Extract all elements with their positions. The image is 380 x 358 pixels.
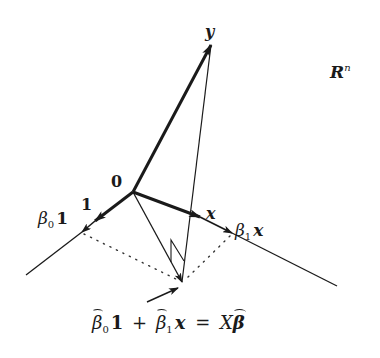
span-line-one-direction: [26, 232, 82, 275]
x-text: x: [206, 204, 216, 223]
beta1-hat-sub: 1: [166, 324, 172, 335]
residual-line: [182, 45, 211, 282]
label-x: x: [206, 206, 216, 222]
space-symbol: R: [330, 62, 344, 82]
vector-beta0-one: [82, 221, 95, 232]
pointer-arrow: [147, 288, 178, 302]
beta1-coef: β: [235, 220, 245, 240]
plus-sign: +: [132, 312, 147, 333]
design-matrix: X: [220, 312, 233, 333]
beta-hat-vec: β: [233, 314, 245, 332]
label-y: y: [205, 24, 214, 40]
beta1-vec: x: [253, 220, 263, 240]
label-fitted-equation: β01 + β1x = Xβ: [92, 314, 245, 332]
beta0-hat: β: [92, 314, 102, 332]
diagram-canvas: [0, 0, 380, 358]
label-one: 1: [81, 197, 92, 213]
vector-y: [133, 45, 211, 192]
beta1-hat: β: [156, 314, 166, 332]
label-space-Rn: Rn: [330, 64, 351, 81]
beta1-sub: 1: [245, 231, 251, 242]
right-angle-marker: [171, 240, 184, 262]
one-text: 1: [81, 195, 92, 214]
beta0-hat-sub: 0: [102, 324, 108, 335]
one-vec: 1: [111, 312, 124, 333]
beta0-vec: 1: [56, 208, 68, 228]
label-beta0-one: β01: [38, 210, 68, 227]
beta0-sub: 0: [48, 219, 54, 230]
space-dimension: n: [344, 62, 350, 73]
dotted-projection-lines: [84, 234, 230, 281]
vector-beta1-x: [200, 217, 232, 233]
beta0-coef: β: [38, 208, 48, 228]
x-vec: x: [175, 312, 186, 333]
label-y-text: y: [205, 22, 214, 41]
label-beta1-x: β1x: [235, 222, 263, 239]
origin-text: 0: [111, 172, 122, 191]
equals-sign: =: [195, 312, 210, 333]
vector-one: [95, 192, 133, 221]
vector-fitted: [133, 192, 182, 282]
label-origin: 0: [111, 174, 122, 190]
